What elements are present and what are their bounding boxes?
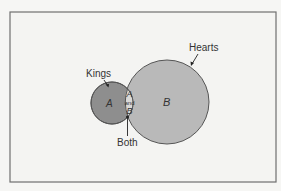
set-a-name-label: Kings [86, 68, 111, 79]
set-b-name-label: Hearts [189, 42, 218, 53]
intersection-text-mid: and [124, 100, 134, 106]
intersection-name-label: Both [117, 137, 138, 148]
region-b-label: B [163, 96, 170, 108]
intersection-text-top: A [125, 89, 132, 99]
venn-diagram: A B A and B Kings Hearts Both [0, 0, 281, 191]
region-a-label: A [105, 98, 113, 109]
intersection-text-bottom: B [126, 106, 132, 116]
